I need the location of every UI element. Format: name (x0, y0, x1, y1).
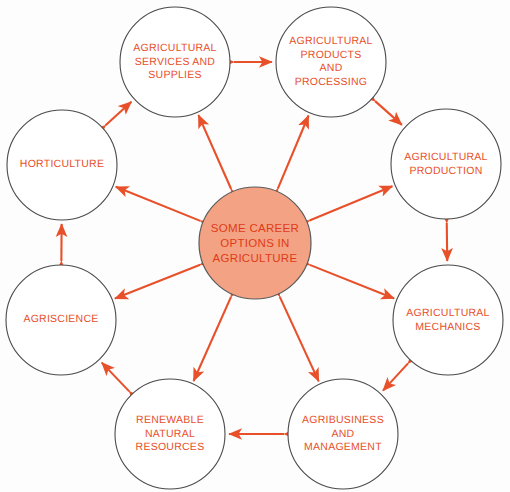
center-circle-group (199, 187, 311, 299)
spoke-arrow-center-to-horticulture (116, 187, 201, 221)
diagram-canvas (0, 0, 510, 492)
spoke-arrow-center-to-agricultural-mechanics (310, 265, 394, 299)
node-circle-agricultural-mechanics[interactable] (393, 265, 503, 375)
spoke-arrow-center-to-agricultural-products-and-processing (278, 115, 309, 188)
career-options-diagram: AGRICULTURAL SERVICES AND SUPPLIESAGRICU… (0, 0, 510, 492)
node-circle-agricultural-services-and-supplies[interactable] (120, 7, 230, 117)
center-circle-some-career-options-in-agriculture[interactable] (199, 187, 311, 299)
node-circle-renewable-natural-resources[interactable] (115, 379, 225, 489)
node-circle-agricultural-production[interactable] (391, 109, 501, 219)
node-circle-agricultural-products-and-processing[interactable] (276, 7, 386, 117)
node-circle-agriscience[interactable] (6, 265, 116, 375)
ring-arrow-agricultural-products-and-processing-to-agricultural-production (375, 101, 402, 125)
spoke-arrow-center-to-agribusiness-and-management (280, 297, 319, 382)
spoke-arrow-center-to-agricultural-services-and-supplies (198, 115, 231, 189)
ring-arrow-agricultural-mechanics-to-agribusiness-and-management (383, 363, 408, 390)
ring-arrow-renewable-natural-resources-to-agriscience (102, 363, 129, 392)
ring-arrow-horticulture-to-agricultural-services-and-supplies (106, 102, 132, 126)
spoke-arrow-center-to-agricultural-production (310, 186, 393, 220)
spoke-arrow-center-to-agriscience (115, 265, 200, 299)
node-circle-agribusiness-and-management[interactable] (288, 379, 398, 489)
spoke-arrow-center-to-renewable-natural-resources (194, 297, 231, 381)
node-circle-horticulture[interactable] (7, 110, 117, 220)
